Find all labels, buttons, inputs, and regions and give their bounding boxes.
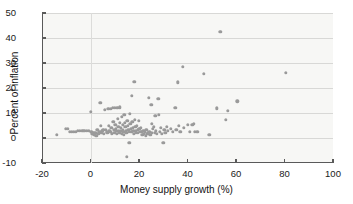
y-tick-mark bbox=[42, 37, 46, 38]
y-tick-label: 50 bbox=[5, 8, 16, 18]
x-tick-label: -20 bbox=[35, 169, 49, 179]
y-tick-mark bbox=[42, 62, 46, 63]
y-gridline bbox=[42, 63, 333, 64]
zero-vertical-gridline bbox=[91, 13, 92, 163]
x-tick-mark bbox=[187, 159, 188, 163]
scatter-plot-figure: -1001020304050-20020406080100 Money supp… bbox=[0, 0, 353, 204]
y-tick-mark bbox=[42, 112, 46, 113]
x-tick-mark bbox=[235, 159, 236, 163]
x-tick-mark bbox=[90, 159, 91, 163]
x-axis-label: Money supply growth (%) bbox=[0, 185, 353, 195]
x-tick-label: 80 bbox=[279, 169, 290, 179]
x-tick-label: 40 bbox=[182, 169, 193, 179]
y-gridline bbox=[42, 138, 333, 139]
x-tick-label: 100 bbox=[325, 169, 341, 179]
x-tick-label: 60 bbox=[231, 169, 242, 179]
x-tick-mark bbox=[138, 159, 139, 163]
x-tick-mark bbox=[332, 159, 333, 163]
x-tick-mark bbox=[284, 159, 285, 163]
y-gridline bbox=[42, 88, 333, 89]
x-tick-mark bbox=[41, 159, 42, 163]
y-tick-mark bbox=[42, 12, 46, 13]
y-gridline bbox=[42, 113, 333, 114]
y-axis-label: Percent of inflation bbox=[10, 18, 20, 168]
y-gridline bbox=[42, 13, 333, 14]
x-tick-label: 0 bbox=[88, 169, 93, 179]
y-tick-mark bbox=[42, 162, 46, 163]
x-tick-label: 20 bbox=[134, 169, 145, 179]
y-tick-mark bbox=[42, 87, 46, 88]
y-gridline bbox=[42, 38, 333, 39]
y-tick-mark bbox=[42, 137, 46, 138]
